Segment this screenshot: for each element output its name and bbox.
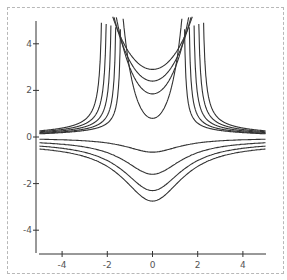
y-tick-label: 0 xyxy=(26,132,32,142)
y-tick-label: 2 xyxy=(26,85,32,95)
contour-line-hyper-3 xyxy=(194,25,265,132)
x-tick-label: 2 xyxy=(195,260,201,270)
contour-line-lower-4 xyxy=(40,149,266,201)
contour-line-lower-2 xyxy=(40,143,266,175)
x-tick-label: 4 xyxy=(240,260,246,270)
contour-chart: -4-2024 -4-2024 xyxy=(0,0,287,280)
x-tick-label: -2 xyxy=(103,260,112,270)
x-tick-label: -4 xyxy=(58,260,67,270)
y-tick-label: 4 xyxy=(26,39,32,49)
contour-line-hyper-4 xyxy=(40,24,107,132)
y-tick-label: -2 xyxy=(23,179,32,189)
contour-line-lower-3 xyxy=(40,146,266,191)
contour-lines xyxy=(40,17,266,201)
contour-line-hyper-4 xyxy=(199,24,266,132)
contour-line-hyper-5 xyxy=(40,23,102,131)
y-ticks: -4-2024 xyxy=(23,39,39,235)
contour-line-upper-u-1 xyxy=(113,17,193,70)
contour-line-hyper-3 xyxy=(40,25,111,132)
contour-line-hyper-5 xyxy=(204,23,266,131)
contour-line-upper-u-2 xyxy=(114,17,191,81)
contour-line-upper-u-4 xyxy=(123,19,182,119)
x-tick-label: 0 xyxy=(150,260,156,270)
y-tick-label: -4 xyxy=(23,225,32,235)
